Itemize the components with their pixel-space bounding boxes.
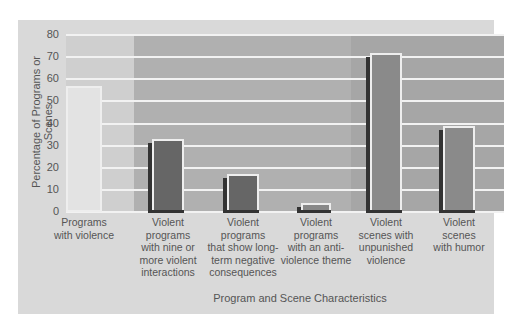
gridline	[66, 56, 504, 58]
x-tick-label: Violent scenes with unpunished violence	[346, 216, 426, 266]
gridline	[66, 34, 504, 36]
gridline	[66, 78, 504, 80]
plot-area	[66, 35, 504, 212]
x-tick-label: Violent scenes with humor	[419, 216, 499, 254]
bar	[370, 53, 402, 212]
x-axis-title: Program and Scene Characteristics	[160, 292, 440, 304]
bar	[301, 203, 331, 212]
bar	[152, 139, 184, 212]
y-axis-title: Percentage of Programs or Scenes	[30, 42, 54, 202]
y-tick-label: 80	[35, 28, 59, 40]
gridline	[66, 123, 504, 125]
bar	[227, 174, 259, 212]
bar	[443, 126, 475, 212]
bar	[66, 86, 102, 212]
gridline	[66, 100, 504, 102]
x-tick-label: Violent programs with an anti- violence …	[276, 216, 356, 266]
x-tick-label: Violent programs that show long- term ne…	[203, 216, 283, 279]
x-tick-label: Programs with violence	[44, 216, 124, 241]
x-tick-label: Violent programs with nine or more viole…	[128, 216, 208, 279]
